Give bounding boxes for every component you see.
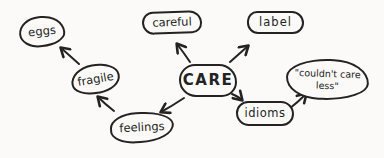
node-label-label: label: [259, 16, 292, 29]
arrow-feelings-to-fragile: [98, 97, 114, 111]
arrow-care-to-idioms: [232, 94, 242, 100]
node-idioms: idioms: [236, 101, 294, 126]
node-careful-label: careful: [152, 15, 192, 29]
arrow-care-to-feelings: [161, 98, 184, 112]
mind-map-canvas: eggs careful label fragile CARE "couldn'…: [0, 0, 384, 158]
node-care-center: CARE: [179, 64, 237, 97]
node-careful: careful: [142, 10, 203, 35]
node-care-label: CARE: [183, 72, 233, 89]
node-eggs-label: eggs: [28, 24, 57, 39]
node-feelings-label: feelings: [119, 120, 165, 135]
node-couldnt-care-less-line2: less": [316, 79, 339, 92]
node-idioms-label: idioms: [245, 107, 286, 120]
node-label: label: [247, 11, 304, 34]
node-fragile-label: fragile: [76, 70, 114, 89]
arrow-care-to-careful: [177, 44, 190, 62]
arrow-care-to-label: [230, 46, 248, 62]
arrow-fragile-to-eggs: [61, 48, 79, 64]
